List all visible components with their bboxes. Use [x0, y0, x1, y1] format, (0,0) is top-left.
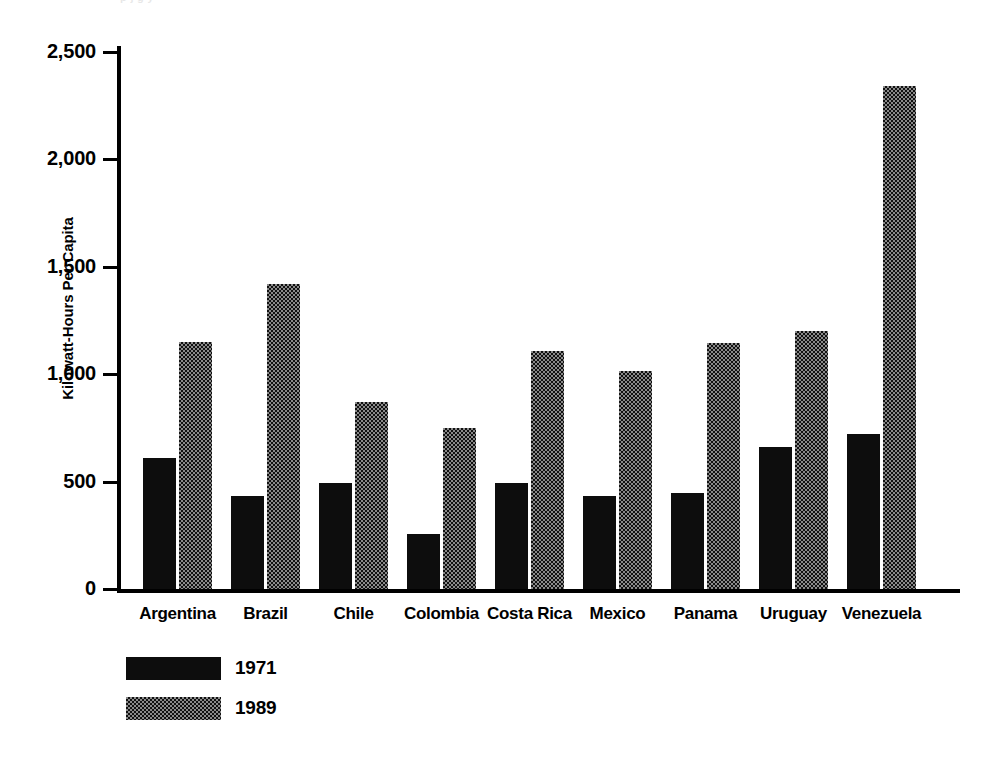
- bar-group-chile: [319, 52, 388, 589]
- bar-colombia-1971: [407, 534, 440, 589]
- legend-item-1989: 1989: [126, 693, 276, 723]
- x-axis-line: [117, 589, 960, 593]
- plot-area: [117, 52, 960, 589]
- bar-colombia-1989: [443, 428, 476, 589]
- bar-argentina-1971: [143, 458, 176, 589]
- bar-mexico-1989: [619, 371, 652, 589]
- y-tick-1500: [103, 266, 117, 269]
- legend-swatch-1971: [126, 657, 221, 680]
- bar-chart: Kilowatt-Hours Per Capita 05001,0001,500…: [0, 0, 1005, 758]
- y-tick-2000: [103, 158, 117, 161]
- bar-panama-1989: [707, 343, 740, 589]
- bar-brazil-1989: [267, 284, 300, 589]
- bar-mexico-1971: [583, 496, 616, 589]
- bar-uruguay-1989: [795, 331, 828, 589]
- y-tick-500: [103, 481, 117, 484]
- bar-group-colombia: [407, 52, 476, 589]
- y-tick-label-1000: 1,000: [18, 363, 96, 383]
- bar-uruguay-1971: [759, 447, 792, 589]
- y-tick-label-0: 0: [18, 578, 96, 598]
- y-tick-label-2000: 2,000: [18, 148, 96, 168]
- bar-costa-rica-1971: [495, 483, 528, 589]
- bar-argentina-1989: [179, 342, 212, 589]
- bar-chile-1989: [355, 402, 388, 589]
- legend-swatch-1989: [126, 697, 221, 720]
- legend-label-1989: 1989: [235, 697, 276, 719]
- y-tick-1000: [103, 373, 117, 376]
- bar-group-venezuela: [847, 52, 916, 589]
- y-tick-label-500: 500: [18, 471, 96, 491]
- y-axis-title: Kilowatt-Hours Per Capita: [59, 184, 76, 434]
- bar-group-mexico: [583, 52, 652, 589]
- bar-group-argentina: [143, 52, 212, 589]
- legend-item-1971: 1971: [126, 653, 276, 683]
- legend-label-1971: 1971: [235, 657, 276, 679]
- bar-group-brazil: [231, 52, 300, 589]
- bar-costa-rica-1989: [531, 351, 564, 589]
- bar-chile-1971: [319, 483, 352, 589]
- x-label-venezuela: Venezuela: [812, 604, 952, 624]
- y-tick-label-2500: 2,500: [18, 41, 96, 61]
- y-tick-label-1500: 1,500: [18, 256, 96, 276]
- bar-venezuela-1989: [883, 86, 916, 589]
- bar-panama-1971: [671, 493, 704, 589]
- bar-group-panama: [671, 52, 740, 589]
- y-tick-2500: [103, 51, 117, 54]
- chart-legend: 1971 1989: [126, 653, 276, 733]
- bar-venezuela-1971: [847, 434, 880, 589]
- y-tick-0: [103, 588, 117, 591]
- bar-group-costa-rica: [495, 52, 564, 589]
- bar-brazil-1971: [231, 496, 264, 589]
- bar-group-uruguay: [759, 52, 828, 589]
